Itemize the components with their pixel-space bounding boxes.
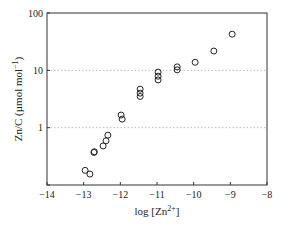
x-tick-label: −12: [113, 189, 129, 200]
data-point: [87, 171, 93, 177]
x-axis-title: log [Zn2+]: [135, 204, 180, 217]
data-point: [119, 116, 125, 122]
data-point: [105, 132, 111, 138]
plot-frame: [47, 13, 267, 185]
x-tick-label: −9: [225, 189, 236, 200]
data-point: [229, 31, 235, 37]
x-tick-label: −11: [149, 189, 164, 200]
x-tick-label: −13: [76, 189, 92, 200]
y-tick-label: 1: [38, 122, 43, 133]
y-tick-label: 10: [33, 65, 43, 76]
y-axis-title: Zn/C (µmol mol−1): [11, 56, 25, 141]
x-tick-label: −10: [186, 189, 202, 200]
data-point: [103, 138, 109, 144]
x-tick-label: −8: [262, 189, 273, 200]
y-tick-label: 100: [28, 8, 43, 19]
data-point: [118, 112, 124, 118]
x-tick-label: −14: [39, 189, 55, 200]
data-point: [211, 48, 217, 54]
data-points: [82, 31, 235, 177]
data-point: [192, 59, 198, 65]
data-point: [155, 77, 161, 83]
scatter-chart: −14−13−12−11−10−9−8 110100 log [Zn2+] Zn…: [0, 0, 283, 229]
